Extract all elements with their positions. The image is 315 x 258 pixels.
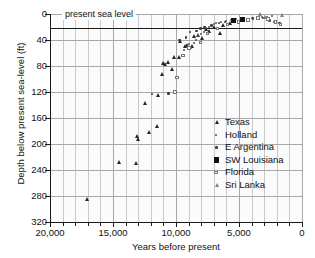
data-point <box>172 55 176 59</box>
data-point <box>155 124 159 128</box>
triangle-filled-icon <box>212 116 223 129</box>
x-tick-label: 15,000 <box>83 228 143 238</box>
data-point <box>258 12 262 16</box>
data-point <box>215 22 217 24</box>
x-axis-tick <box>163 223 164 226</box>
present-sea-level-annotation: present sea level <box>62 8 136 20</box>
data-point <box>117 160 121 164</box>
gridline-horizontal <box>50 40 302 41</box>
x-axis-tick <box>201 223 202 226</box>
x-tick-label: 0 <box>272 228 315 238</box>
data-point <box>252 17 255 20</box>
data-point <box>221 23 225 27</box>
x-axis-tick <box>214 223 215 226</box>
data-point <box>193 42 195 44</box>
data-point <box>173 90 177 94</box>
triangle-open-icon <box>212 179 223 192</box>
data-point <box>187 46 191 50</box>
data-point <box>147 130 151 134</box>
present-sea-level-line <box>50 28 302 29</box>
data-point <box>175 76 179 80</box>
legend-item-label: Holland <box>225 129 257 142</box>
data-point <box>181 54 185 58</box>
gridline-horizontal <box>50 66 302 67</box>
data-point <box>246 18 250 22</box>
gridline-horizontal <box>50 170 302 171</box>
data-point <box>263 15 267 19</box>
sea-level-scatter-chart: present sea level 0408012016020024028032… <box>0 0 315 258</box>
data-point <box>203 26 206 29</box>
data-point <box>195 30 198 33</box>
legend-item-label: Florida <box>225 166 254 179</box>
x-axis-tick <box>289 223 290 226</box>
data-point <box>266 17 270 21</box>
x-tick-label: 20,000 <box>20 228 80 238</box>
x-axis-tick <box>126 223 127 226</box>
data-point <box>218 22 221 25</box>
data-point <box>206 32 210 36</box>
legend-item-label: SW Louisiana <box>225 154 284 167</box>
x-axis-tick <box>189 223 190 226</box>
data-point <box>274 20 278 24</box>
data-point <box>240 17 245 22</box>
data-point <box>203 31 205 33</box>
data-point <box>237 20 241 24</box>
y-axis-title: Depth below present sea-level (ft) <box>15 14 26 214</box>
data-point <box>156 93 160 97</box>
x-tick-label: 10,000 <box>146 228 206 238</box>
x-axis-tick <box>277 223 278 226</box>
data-point <box>143 101 147 105</box>
data-point <box>279 23 283 27</box>
data-point <box>166 60 170 64</box>
y-tick-label: 320 <box>9 217 47 227</box>
square-filled-icon <box>212 154 223 167</box>
data-point <box>136 137 140 141</box>
legend-item-label: E Argentina <box>225 141 274 154</box>
legend-item-label: Texas <box>225 116 250 129</box>
x-axis-tick <box>100 223 101 226</box>
data-point <box>183 49 185 51</box>
x-axis-tick <box>264 223 265 226</box>
data-point <box>85 197 89 201</box>
legend-item-label: Sri Lanka <box>225 179 265 192</box>
data-point <box>226 23 230 27</box>
data-point <box>170 67 174 71</box>
data-point <box>188 43 190 45</box>
data-point <box>231 18 236 23</box>
data-point <box>216 27 220 31</box>
data-point <box>200 36 204 40</box>
data-point <box>256 16 260 20</box>
dot-small-icon <box>212 129 223 142</box>
x-axis-tick <box>138 223 139 226</box>
data-point <box>280 13 284 17</box>
square-open-icon <box>212 166 223 179</box>
x-axis-tick <box>151 223 152 226</box>
data-point <box>218 31 222 35</box>
data-point <box>199 27 202 30</box>
data-point <box>210 24 213 27</box>
gridline-vertical <box>302 14 303 222</box>
x-axis-title: Years before present <box>50 241 302 252</box>
gridline-horizontal <box>50 118 302 119</box>
data-point <box>151 93 154 96</box>
x-axis-tick <box>226 223 227 226</box>
data-point <box>167 92 170 95</box>
data-point <box>271 15 273 17</box>
y-axis-line <box>50 14 51 223</box>
data-point <box>185 36 188 39</box>
data-point <box>199 41 203 45</box>
x-axis-tick <box>252 223 253 226</box>
data-point <box>134 161 138 165</box>
x-tick-label: 5,000 <box>209 228 269 238</box>
data-point <box>200 33 202 35</box>
dot-icon <box>212 141 223 154</box>
x-axis-tick <box>88 223 89 226</box>
x-axis-tick <box>75 223 76 226</box>
data-point <box>177 55 181 59</box>
x-axis-tick <box>63 223 64 226</box>
data-point <box>160 72 164 76</box>
